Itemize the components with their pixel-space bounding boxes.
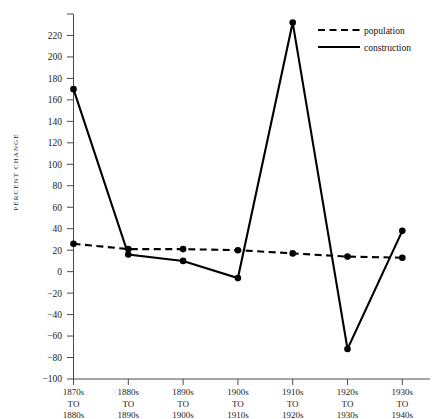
legend-label: construction — [364, 43, 411, 53]
x-tick-label: 1930sTO1940s — [392, 387, 414, 419]
y-tick-label: 200 — [48, 52, 63, 62]
y-tick-label: −80 — [47, 353, 62, 363]
x-tick-label: 1880sTO1890s — [118, 387, 140, 419]
x-tick-label-line: TO — [232, 399, 244, 409]
x-tick-label-line: 1920s — [337, 387, 359, 397]
x-tick-group — [74, 379, 403, 385]
x-tick-label-line: 1910s — [227, 410, 249, 419]
y-tick-label-group: 220200180160140120100806040200−20−40−60−… — [42, 31, 62, 385]
y-tick-label: −60 — [47, 331, 62, 341]
y-tick-label: 180 — [48, 74, 63, 84]
data-point-marker — [289, 19, 296, 26]
data-point-marker — [399, 254, 406, 261]
chart-legend: populationconstruction — [318, 26, 411, 53]
y-axis: 220200180160140120100806040200−20−40−60−… — [42, 14, 73, 384]
x-tick-label: 1890sTO1900s — [172, 387, 194, 419]
x-tick-label-line: 1940s — [392, 410, 414, 419]
y-tick-group — [67, 14, 74, 379]
x-tick-label-group: 1870sTO1880s1880sTO1890s1890sTO1900s1900… — [63, 387, 414, 419]
y-tick-label: 160 — [48, 95, 63, 105]
y-tick-label: 100 — [48, 160, 63, 170]
data-point-marker — [289, 250, 296, 257]
data-point-marker — [180, 258, 187, 265]
data-point-marker — [235, 247, 242, 254]
x-tick-label-line: 1920s — [282, 410, 304, 419]
x-tick-label-line: 1880s — [63, 410, 85, 419]
series-group — [70, 19, 405, 352]
y-tick-label: 0 — [57, 267, 62, 277]
x-tick-label: 1870sTO1880s — [63, 387, 85, 419]
y-tick-label: 40 — [53, 224, 63, 234]
x-tick-label-line: 1870s — [63, 387, 85, 397]
legend-label: population — [364, 26, 405, 36]
chart-plot-area: 220200180160140120100806040200−20−40−60−… — [0, 0, 434, 419]
x-tick-label: 1900sTO1910s — [227, 387, 249, 419]
data-point-marker — [70, 240, 77, 247]
y-tick-label: 140 — [48, 117, 63, 127]
construction-line — [74, 23, 403, 349]
x-tick-label-line: TO — [342, 399, 354, 409]
y-tick-label: 220 — [48, 31, 63, 41]
x-tick-label: 1920sTO1930s — [337, 387, 359, 419]
x-tick-label-line: TO — [177, 399, 189, 409]
x-tick-label-line: 1930s — [392, 387, 414, 397]
data-point-marker — [399, 228, 406, 235]
x-tick-label-line: 1900s — [172, 410, 194, 419]
y-tick-label: −20 — [47, 289, 62, 299]
x-tick-label-line: 1900s — [227, 387, 249, 397]
x-tick-label-line: 1930s — [337, 410, 359, 419]
y-tick-label: −100 — [42, 374, 62, 384]
x-tick-label: 1910sTO1920s — [282, 387, 304, 419]
population-markers — [70, 240, 405, 261]
x-tick-label-line: 1890s — [172, 387, 194, 397]
y-tick-label: 80 — [53, 181, 63, 191]
x-tick-label-line: 1910s — [282, 387, 304, 397]
x-tick-label-line: TO — [122, 399, 134, 409]
x-tick-label-line: TO — [287, 399, 299, 409]
x-axis: 1870sTO1880s1880sTO1890s1890sTO1900s1900… — [63, 379, 430, 419]
x-tick-label-line: 1880s — [118, 387, 140, 397]
y-tick-label: 120 — [48, 138, 63, 148]
y-tick-label: 60 — [53, 203, 63, 213]
x-tick-label-line: TO — [68, 399, 80, 409]
data-point-marker — [235, 275, 242, 282]
y-tick-label: 20 — [53, 246, 63, 256]
chart-container: PERCENT CHANGE 2202001801601401201008060… — [0, 0, 434, 419]
x-tick-label-line: 1890s — [118, 410, 140, 419]
data-point-marker — [180, 246, 187, 253]
data-point-marker — [125, 246, 132, 253]
data-point-marker — [344, 346, 351, 353]
data-point-marker — [344, 253, 351, 260]
x-tick-label-line: TO — [396, 399, 408, 409]
y-tick-label: −40 — [47, 310, 62, 320]
data-point-marker — [70, 86, 77, 93]
construction-markers — [70, 19, 405, 352]
